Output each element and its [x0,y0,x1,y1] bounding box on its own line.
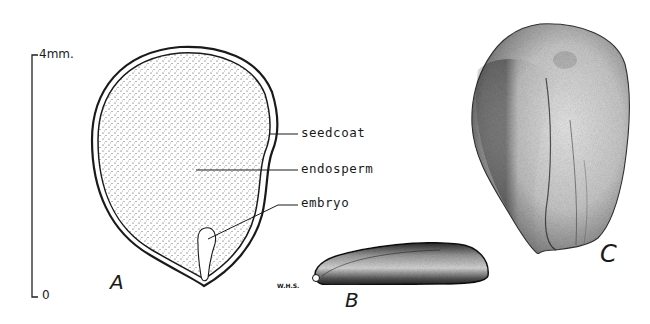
scale-bottom-label: 0 [42,288,50,302]
callout-seedcoat: seedcoat [301,125,365,140]
scale-bar [32,55,38,297]
scale-top-label: 4mm. [39,47,74,61]
callout-embryo: embryo [301,195,349,210]
callout-endosperm: endosperm [301,161,373,176]
figure-label-a: A [110,270,124,294]
seed-side-view-b [313,243,489,285]
artist-signature: W.H.S. [277,282,299,289]
figure-label-c: C [600,240,617,268]
seed-face-view-c [472,24,630,254]
figure-label-b: B [345,288,359,312]
seed-section-a [92,47,277,286]
